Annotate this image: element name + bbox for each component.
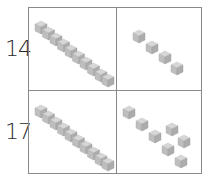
ten-rod-row-1 <box>35 21 114 87</box>
blocks-drawing <box>0 0 207 191</box>
ten-rod-row-2 <box>35 105 114 171</box>
unit-cubes-row-1 <box>133 30 183 75</box>
unit-cubes-row-2 <box>123 106 190 168</box>
